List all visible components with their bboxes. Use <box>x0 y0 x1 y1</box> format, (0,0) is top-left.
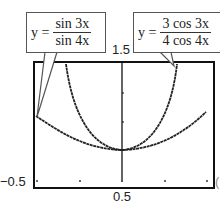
callout-sin-ratio: y = sin 3x sin 4x <box>26 12 106 53</box>
callout-lhs: y = <box>31 25 49 41</box>
callout-cos-ratio: y = 3 cos 3x 4 cos 4x <box>133 12 220 53</box>
fraction: sin 3x sin 4x <box>53 16 91 49</box>
denominator: sin 4x <box>53 33 91 49</box>
callout-lhs: y = <box>138 25 156 41</box>
cropped-label: ( <box>215 174 219 189</box>
series-sin-ratio <box>36 112 206 150</box>
numerator: 3 cos 3x <box>160 16 211 33</box>
denominator: 4 cos 4x <box>160 33 211 49</box>
y-max-label: 1.5 <box>112 42 130 57</box>
x-min-label: −0.5 <box>0 174 26 189</box>
x-center-label: 0.5 <box>113 189 131 203</box>
numerator: sin 3x <box>53 16 91 33</box>
fraction: 3 cos 3x 4 cos 4x <box>160 16 211 49</box>
